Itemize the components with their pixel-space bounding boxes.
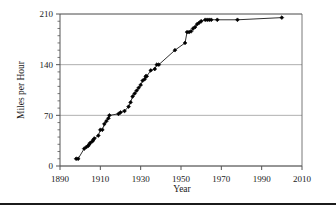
footer-divider <box>0 203 336 205</box>
x-tick-label-2010: 2010 <box>293 174 312 184</box>
x-tick-label-1990: 1990 <box>253 174 272 184</box>
chart-figure: 070140210 1890191019301950197019902010 M… <box>0 0 336 212</box>
x-tick-label-1890: 1890 <box>51 174 70 184</box>
y-tick-label-70: 70 <box>44 111 54 121</box>
y-axis-label: Miles per Hour <box>16 60 26 119</box>
y-tick-label-210: 210 <box>40 9 54 19</box>
y-tick-label-0: 0 <box>49 161 54 171</box>
x-tick-label-1910: 1910 <box>91 174 110 184</box>
x-tick-label-1970: 1970 <box>212 174 231 184</box>
x-tick-label-1930: 1930 <box>132 174 151 184</box>
x-tick-label-1950: 1950 <box>172 174 191 184</box>
x-axis-label: Year <box>173 184 191 194</box>
speed-record-line-chart: 070140210 1890191019301950197019902010 M… <box>0 0 336 212</box>
y-tick-label-140: 140 <box>40 60 54 70</box>
